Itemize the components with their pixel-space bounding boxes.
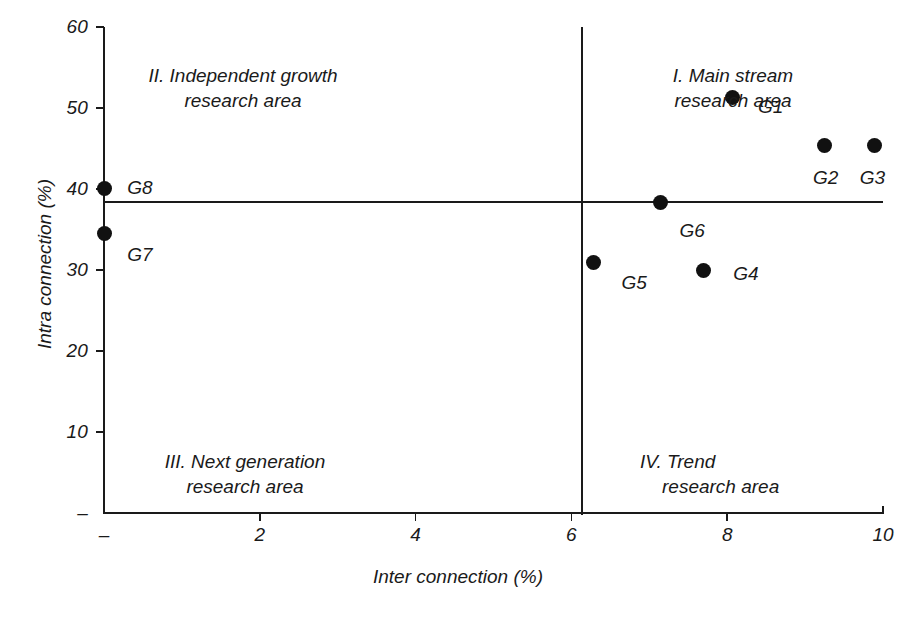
data-point-label-g3: G3 [860,167,885,189]
data-point-g3[interactable] [867,138,882,153]
y-tick-label-60: 60 [30,16,88,38]
data-point-label-g7: G7 [127,244,152,266]
data-point-g8[interactable] [97,181,112,196]
quadrant-divider-horizontal [104,201,883,203]
quadrant-ii-line2: research area [118,88,368,113]
y-tick-30 [96,269,104,271]
y-tick-50 [96,107,104,109]
y-tick-60 [96,26,104,28]
y-tick-20 [96,350,104,352]
x-axis-title: Inter connection (%) [0,566,916,588]
data-point-label-g6: G6 [680,220,705,242]
data-point-g6[interactable] [653,195,668,210]
x-tick-label-2: 2 [255,524,266,546]
x-tick-label-8: 8 [722,524,733,546]
x-axis-right-cap [882,506,884,514]
data-point-g4[interactable] [696,263,711,278]
quadrant-iv-line2: research area [640,474,840,499]
y-tick-label-0: – [30,502,88,524]
data-point-g5[interactable] [586,255,601,270]
quadrant-label-iv: IV. Trend research area [640,424,840,524]
scatter-chart: 605040302010– –246810 G1G2G3G4G5G6G7G8 I… [0,0,916,619]
x-tick-label-4: 4 [410,524,421,546]
x-tick-6 [571,513,573,521]
data-point-label-g8: G8 [127,177,152,199]
quadrant-iii-line1: III. Next generation [165,451,326,472]
y-axis-title: Intra connection (%) [34,114,56,414]
x-tick-label-10: 10 [872,524,893,546]
quadrant-divider-vertical [581,27,583,515]
x-tick-label-6: 6 [566,524,577,546]
data-point-label-g2: G2 [813,167,838,189]
y-tick-10 [96,431,104,433]
data-point-label-g5: G5 [622,272,647,294]
quadrant-label-i: I. Main stream research area [618,38,848,138]
x-tick-label-0: – [99,524,110,546]
quadrant-i-line2: research area [618,88,848,113]
data-point-label-g4: G4 [733,263,758,285]
quadrant-iv-line1: IV. Trend [640,451,715,472]
quadrant-iii-line2: research area [120,474,370,499]
quadrant-label-iii: III. Next generation research area [120,424,370,524]
quadrant-ii-line1: II. Independent growth [148,65,337,86]
quadrant-i-line1: I. Main stream [673,65,793,86]
data-point-g7[interactable] [97,226,112,241]
y-tick-label-10: 10 [30,421,88,443]
x-tick-4 [415,513,417,521]
data-point-g2[interactable] [817,138,832,153]
quadrant-label-ii: II. Independent growth research area [118,38,368,138]
